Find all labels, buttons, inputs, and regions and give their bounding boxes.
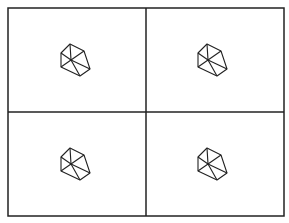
polyhedron-edge (198, 164, 208, 171)
polyhedron-edge (198, 157, 208, 164)
polyhedron-edge (61, 53, 71, 60)
polyhedron-edge (71, 51, 84, 60)
polyhedron-outline (61, 44, 90, 76)
polyhedron-icon-top-right (198, 44, 227, 76)
polyhedron-icon-bottom-left (61, 148, 90, 180)
polyhedron-outline (198, 44, 227, 76)
polyhedron-edge (198, 53, 208, 60)
polyhedron-outline (198, 148, 227, 180)
polyhedron-edge (208, 51, 221, 60)
polyhedron-edge (208, 155, 221, 164)
polyhedron-edge (70, 44, 71, 60)
polyhedron-edge (61, 157, 71, 164)
polyhedron-edge (207, 44, 208, 60)
polyhedron-edge (61, 164, 71, 171)
polyhedron-icon-top-left (61, 44, 90, 76)
polyhedron-edge (70, 148, 71, 164)
polyhedron-edge (207, 148, 208, 164)
polyhedron-edge (61, 60, 71, 67)
polyhedron-outline (61, 148, 90, 180)
polyhedron-edge (198, 60, 208, 67)
diagram-canvas (0, 0, 289, 223)
polyhedron-icon-bottom-right (198, 148, 227, 180)
polyhedron-edge (71, 155, 84, 164)
